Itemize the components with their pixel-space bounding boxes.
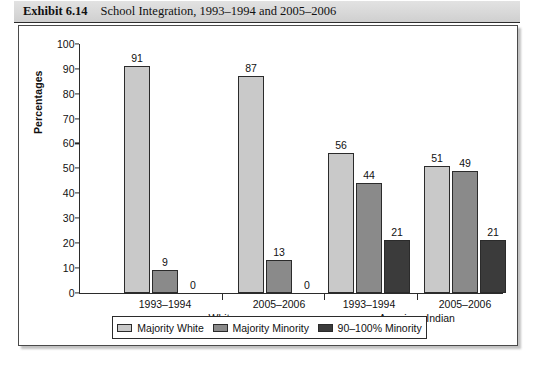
bar-value-label: 0: [304, 279, 310, 291]
bar-value-label: 56: [335, 139, 347, 151]
bar-value-label: 87: [245, 62, 257, 74]
bar-value-label: 91: [131, 52, 143, 64]
legend-swatch: [117, 324, 132, 332]
exhibit-number-label: Exhibit 6.14: [14, 4, 88, 19]
x-period-label: 1993–1994: [139, 298, 192, 310]
y-tick-label: 100: [57, 38, 75, 50]
bar: [384, 240, 410, 292]
bar: [424, 166, 450, 293]
x-period-label: 2005–2006: [439, 298, 492, 310]
bar-value-label: 49: [459, 157, 471, 169]
bar-value-label: 13: [273, 246, 285, 258]
bar-value-label: 0: [190, 279, 196, 291]
legend-label: 90–100% Minority: [338, 322, 422, 334]
y-tick-label: 90: [63, 63, 75, 75]
legend-item: 90–100% Minority: [318, 322, 422, 334]
legend-label: Majority Minority: [233, 322, 309, 334]
legend-swatch: [213, 324, 228, 332]
y-tick-label: 80: [63, 88, 75, 100]
legend-item: Majority Minority: [213, 322, 309, 334]
bar: [152, 270, 178, 292]
y-tick-label: 20: [63, 237, 75, 249]
legend-item: Majority White: [117, 322, 204, 334]
bar: [266, 260, 292, 292]
figure-frame: Percentages 0102030405060708090100 91908…: [18, 25, 518, 346]
x-period-label: 1993–1994: [343, 298, 396, 310]
plot-area: 0102030405060708090100 91908713056442151…: [79, 44, 503, 294]
legend-label: Majority White: [137, 322, 204, 334]
bar: [328, 153, 354, 292]
x-separator-tick: [222, 294, 223, 300]
page-bottom-text-fragment: [6, 364, 306, 371]
y-tick-label: 10: [63, 262, 75, 274]
x-separator-tick: [417, 294, 418, 300]
bar: [356, 183, 382, 292]
bar: [452, 171, 478, 293]
bar-value-label: 44: [363, 169, 375, 181]
y-tick-label: 30: [63, 212, 75, 224]
x-separator-tick: [324, 294, 325, 300]
bar-value-label: 21: [487, 226, 499, 238]
y-tick-label: 70: [63, 113, 75, 125]
exhibit-title-bar: Exhibit 6.14 School Integration, 1993–19…: [14, 1, 520, 23]
bar: [124, 66, 150, 292]
y-tick-label: 40: [63, 187, 75, 199]
bar-value-label: 51: [431, 152, 443, 164]
bar: [238, 76, 264, 292]
bar-value-label: 9: [162, 256, 168, 268]
y-tick-label: 60: [63, 137, 75, 149]
y-axis-title: Percentages: [32, 70, 44, 134]
x-period-label: 2005–2006: [253, 298, 306, 310]
bar: [480, 240, 506, 292]
bars-layer: 919087130564421514921: [79, 44, 503, 294]
legend-swatch: [318, 324, 333, 332]
y-tick-label: 50: [63, 162, 75, 174]
chart-legend: Majority WhiteMajority Minority90–100% M…: [112, 316, 427, 339]
exhibit-caption: School Integration, 1993–1994 and 2005–2…: [88, 4, 337, 19]
bar-value-label: 21: [391, 226, 403, 238]
